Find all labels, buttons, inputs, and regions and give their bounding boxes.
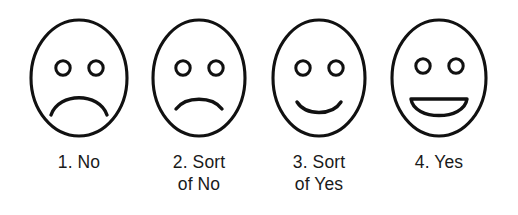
grinning-face-icon[interactable] — [386, 14, 492, 142]
scale-options-row: 1. No 2. Sort of No — [0, 0, 518, 215]
scale-option-1[interactable]: 1. No — [19, 0, 139, 173]
slightly-frowning-face-icon[interactable] — [146, 14, 252, 142]
scale-option-1-label: 1. No — [58, 151, 100, 173]
slightly-smiling-face-icon[interactable] — [266, 14, 372, 142]
scale-option-4[interactable]: 4. Yes — [379, 0, 499, 173]
scale-option-4-label: 4. Yes — [415, 151, 463, 173]
frowning-face-icon[interactable] — [26, 14, 132, 142]
scale-option-3-label: 3. Sort of Yes — [293, 151, 345, 196]
faces-rating-scale: 1. No 2. Sort of No — [0, 0, 518, 215]
scale-option-3[interactable]: 3. Sort of Yes — [259, 0, 379, 196]
scale-option-2[interactable]: 2. Sort of No — [139, 0, 259, 196]
scale-option-2-label: 2. Sort of No — [173, 151, 225, 196]
